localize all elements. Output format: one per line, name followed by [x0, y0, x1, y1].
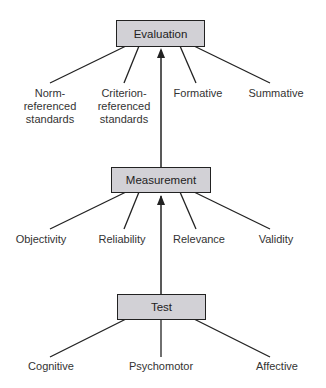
evaluation-label: Evaluation [134, 28, 188, 40]
relevance-label: Relevance [173, 233, 225, 246]
objectivity-label: Objectivity [16, 233, 67, 246]
test-label: Test [151, 301, 172, 313]
connector-lines [0, 0, 326, 388]
measurement-node: Measurement [111, 167, 211, 193]
summative-label: Summative [248, 87, 303, 100]
affective-label: Affective [256, 360, 298, 373]
label-line: referenced [24, 100, 77, 113]
label-line: Summative [248, 87, 303, 100]
norm-referenced-label: Norm- referenced standards [24, 87, 77, 126]
label-line: Criterion- [98, 87, 151, 100]
reliability-label: Reliability [98, 233, 145, 246]
evaluation-node: Evaluation [116, 20, 205, 47]
measurement-label: Measurement [126, 174, 196, 186]
formative-label: Formative [174, 87, 223, 100]
psychomotor-label: Psychomotor [129, 360, 193, 373]
test-node: Test [117, 294, 206, 320]
label-line: Formative [174, 87, 223, 100]
label-line: referenced [98, 100, 151, 113]
label-line: standards [98, 113, 151, 126]
criterion-referenced-label: Criterion- referenced standards [98, 87, 151, 126]
test-branches [50, 319, 270, 357]
cognitive-label: Cognitive [28, 360, 74, 373]
label-line: standards [24, 113, 77, 126]
validity-label: Validity [259, 233, 294, 246]
label-line: Norm- [24, 87, 77, 100]
